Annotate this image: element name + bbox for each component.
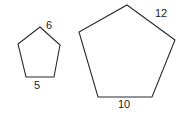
large-pentagon-label-bottom: 10 [118,99,130,110]
large-pentagon-label-upper-right: 12 [155,8,167,19]
small-pentagon-label-upper-right: 6 [46,20,52,31]
small-pentagon-label-bottom: 5 [34,80,40,91]
geometry-figure: 6 5 12 10 [0,0,190,120]
small-pentagon-shape [18,27,60,77]
